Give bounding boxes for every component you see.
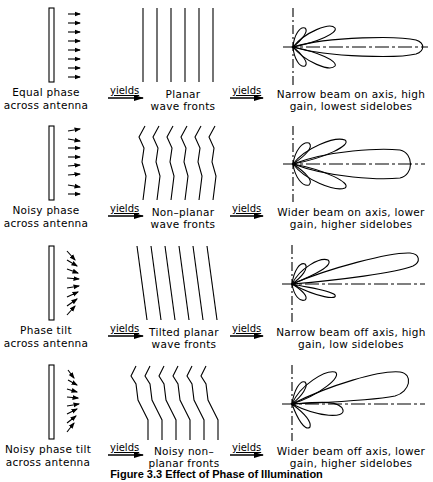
wavefront-label-row1-l1: Planar: [148, 88, 218, 100]
yields-label: yields: [232, 442, 261, 453]
non-planar-wavefronts: [139, 126, 216, 200]
yields-label: yields: [110, 85, 139, 96]
pattern-label-row1-l1: Narrow beam on axis, high: [270, 88, 432, 100]
antenna-aperture: [49, 8, 54, 82]
phase-arrows-tilted: [67, 251, 79, 315]
antenna-label-row3-l2: across antenna: [2, 337, 90, 349]
phase-arrows-noisy: [68, 129, 80, 194]
yields-label: yields: [232, 323, 261, 334]
phase-arrows-noisy-tilted: [67, 370, 79, 432]
yields-label: yields: [110, 203, 139, 214]
wavefront-label-row4-l1: Noisy non–: [146, 445, 222, 457]
phase-arrows-equal: [68, 14, 80, 77]
pattern-label-row3-l2: gain, low sidelobes: [270, 338, 432, 350]
pattern-label-row3-l1: Narrow beam off axis, high: [270, 326, 432, 338]
pattern-label-row1-l2: gain, lowest sidelobes: [270, 100, 432, 112]
wavefront-label-row3-l1: Tilted planar: [146, 326, 222, 338]
phase-illumination-diagram: [0, 0, 433, 482]
antenna-label-row2-l2: across antenna: [2, 217, 90, 229]
antenna-label-row2-l1: Noisy phase: [2, 204, 90, 216]
figure-caption: Figure 3.3 Effect of Phase of Illuminati…: [0, 468, 433, 480]
noisy-non-planar-wavefronts: [131, 366, 218, 440]
yields-label: yields: [110, 323, 139, 334]
yields-label: yields: [232, 203, 261, 214]
wavefront-label-row3-l2: wave fronts: [146, 338, 222, 350]
pattern-label-row4-l1: Wider beam off axis, lower: [270, 445, 432, 457]
radiation-pattern-2: [283, 126, 425, 202]
wavefront-label-row1-l2: wave fronts: [148, 100, 218, 112]
antenna-aperture: [49, 246, 54, 320]
pattern-label-row2-l2: gain, higher sidelobes: [270, 218, 432, 230]
radiation-pattern-4: [282, 365, 425, 441]
antenna-label-row4-l1: Noisy phase tilt: [2, 443, 94, 455]
wavefront-label-row2-l2: wave fronts: [148, 218, 218, 230]
yields-label: yields: [232, 85, 261, 96]
pattern-label-row2-l1: Wider beam on axis, lower: [270, 206, 432, 218]
tilted-wavefronts: [137, 246, 217, 320]
antenna-label-row1-l1: Equal phase: [2, 86, 90, 98]
antenna-label-row3-l1: Phase tilt: [2, 324, 90, 336]
antenna-aperture: [49, 126, 54, 200]
antenna-aperture: [49, 365, 54, 439]
antenna-label-row4-l2: across antenna: [2, 456, 94, 468]
planar-wavefronts: [143, 8, 213, 82]
yields-label: yields: [110, 442, 139, 453]
radiation-pattern-1: [283, 8, 428, 86]
radiation-pattern-3: [282, 245, 425, 322]
wavefront-label-row2-l1: Non–planar: [148, 206, 218, 218]
antenna-label-row1-l2: across antenna: [2, 99, 90, 111]
